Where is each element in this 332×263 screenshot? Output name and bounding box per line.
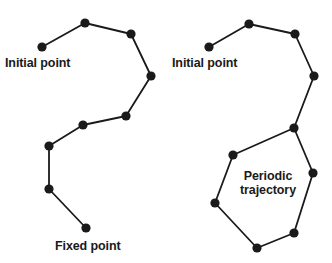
trajectory-node-3	[126, 29, 135, 38]
figure-root: Initial pointFixed pointInitial pointPer…	[0, 0, 332, 263]
trajectory-segment	[49, 189, 86, 228]
trajectory-segment	[85, 23, 131, 34]
trajectory-diagram	[0, 0, 332, 263]
trajectory-segment	[215, 155, 233, 203]
trajectory-segment	[257, 233, 294, 248]
trajectory-node-2	[80, 18, 89, 27]
trajectory-segment	[249, 24, 295, 34]
trajectory-node-3	[290, 29, 299, 38]
trajectory-segment	[126, 76, 151, 116]
label-line: Initial point	[172, 56, 237, 70]
right-panel	[204, 19, 318, 252]
trajectory-segment	[233, 128, 294, 155]
trajectory-node-8	[44, 184, 53, 193]
trajectory-node-loop-lower-right	[289, 228, 298, 237]
trajectory-segment	[42, 23, 85, 47]
trajectory-node-6	[78, 120, 87, 129]
trajectory-segment	[83, 116, 126, 125]
trajectory-node-7	[44, 141, 53, 150]
trajectory-node-4	[309, 71, 318, 80]
label-line: Fixed point	[55, 239, 121, 253]
trajectory-segment	[131, 34, 151, 76]
left-panel	[37, 18, 155, 232]
trajectory-segment	[294, 128, 313, 173]
initial-point-label-right: Initial point	[172, 56, 237, 70]
label-line: trajectory	[240, 183, 296, 197]
trajectory-node-loop-bottom	[252, 243, 261, 252]
trajectory-segment	[295, 34, 314, 76]
periodic-trajectory-label: Periodictrajectory	[240, 169, 296, 197]
trajectory-segment	[49, 125, 83, 146]
trajectory-node-5	[121, 111, 130, 120]
label-line: Initial point	[5, 56, 70, 70]
initial-point-label-left: Initial point	[5, 56, 70, 70]
label-line: Periodic	[240, 169, 296, 183]
trajectory-segment	[209, 24, 249, 47]
trajectory-node-initial	[204, 42, 213, 51]
trajectory-node-loop-upper-left	[228, 150, 237, 159]
trajectory-node-junction	[289, 123, 298, 132]
node-group	[37, 18, 155, 232]
trajectory-node-4	[146, 71, 155, 80]
edge-group	[42, 23, 151, 228]
trajectory-node-loop-left	[210, 198, 219, 207]
trajectory-node-initial	[37, 42, 46, 51]
trajectory-segment	[294, 173, 313, 233]
trajectory-segment	[215, 203, 257, 248]
node-group	[204, 19, 318, 252]
trajectory-node-2	[244, 19, 253, 28]
trajectory-node-fixed	[81, 223, 90, 232]
trajectory-node-loop-right	[308, 168, 317, 177]
trajectory-segment	[294, 76, 314, 128]
fixed-point-label: Fixed point	[55, 239, 121, 253]
